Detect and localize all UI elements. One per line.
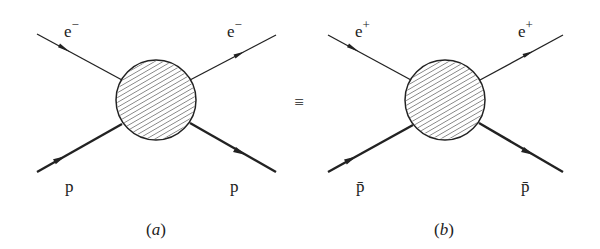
antiproton-out-line <box>479 123 563 172</box>
label-positron-out: e+ <box>518 17 533 41</box>
arrow-icon <box>347 44 359 52</box>
interaction-blob <box>399 55 491 147</box>
arrow-icon <box>234 52 245 59</box>
electron-out-line <box>190 35 276 80</box>
diagram-a: e− e− p p (a) <box>37 17 276 239</box>
label-proton-in: p <box>65 177 74 196</box>
electron-in-line <box>37 34 122 80</box>
equivalence-symbol: ≡ <box>294 93 304 112</box>
label-antiproton-in: p̄ <box>356 177 365 196</box>
arrow-icon <box>58 43 70 52</box>
label-electron-out: e− <box>227 17 242 41</box>
label-positron-in: e+ <box>355 17 370 41</box>
interaction-blob <box>110 55 202 147</box>
label-proton-out: p <box>230 177 239 196</box>
proton-out-line <box>190 123 276 172</box>
caption-b: (b) <box>434 220 454 239</box>
feynman-diagrams: e− e− p p (a) ≡ <box>0 0 600 249</box>
diagram-b: e+ e+ p̄ p̄ (b) <box>328 17 563 239</box>
caption-a: (a) <box>146 220 166 239</box>
positron-in-line <box>328 35 411 80</box>
proton-in-line <box>37 124 122 172</box>
label-antiproton-out: p̄ <box>521 177 530 196</box>
antiproton-in-line <box>328 125 413 172</box>
positron-out-line <box>480 35 563 80</box>
arrow-icon <box>523 51 534 58</box>
label-electron-in: e− <box>64 17 79 41</box>
